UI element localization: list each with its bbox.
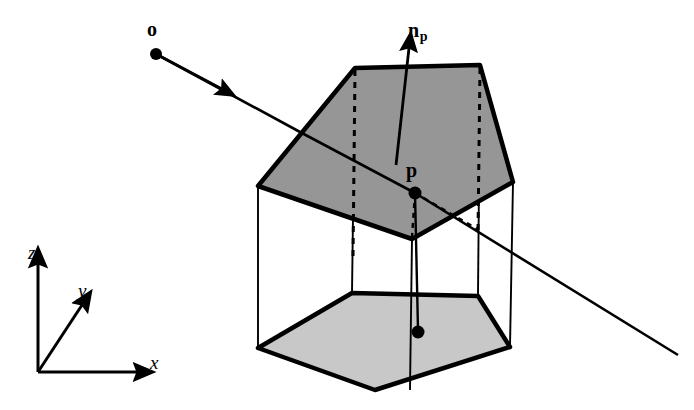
axis-x-label: x [150, 353, 158, 372]
top-face-polygon [258, 65, 513, 239]
normal-vector-label-subscript: p [420, 29, 428, 44]
normal-vector-label: np [408, 20, 427, 44]
axis-y-line [38, 305, 82, 372]
point-p-label: p [406, 160, 417, 180]
axis-z-label: z [28, 243, 35, 262]
coordinate-axes [38, 264, 137, 372]
prism-edge-right [510, 182, 513, 347]
ray-origin-point [150, 48, 162, 60]
intersection-point-p [409, 187, 422, 200]
diagram-canvas [0, 0, 694, 410]
axis-y-label: y [78, 281, 86, 300]
ray-origin-label: o [147, 19, 157, 39]
ray-prism-intersection-figure: o np p z y x [0, 0, 694, 410]
normal-vector-label-base: n [408, 19, 419, 41]
ray-arrow-incoming [156, 54, 222, 89]
projected-point-on-base [412, 326, 425, 339]
bottom-face-polygon [258, 293, 510, 390]
